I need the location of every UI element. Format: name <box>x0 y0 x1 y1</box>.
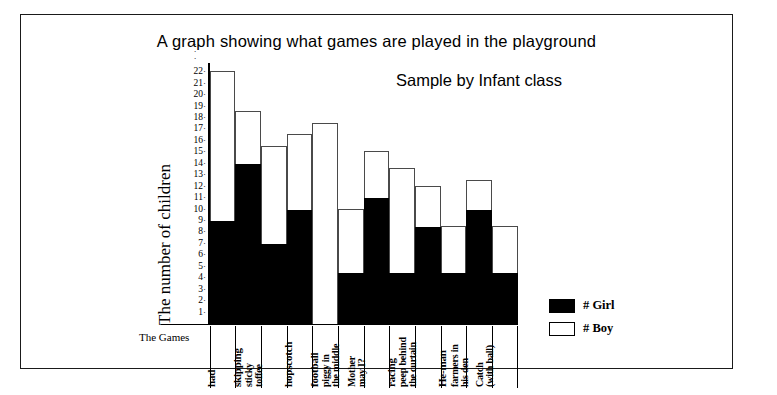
bar <box>338 210 364 324</box>
axis-top-dots: ... <box>194 39 196 60</box>
bar-segment-girl <box>389 273 415 325</box>
x-category-label-line: hopscotch <box>283 342 294 387</box>
legend-label: # Boy <box>583 321 613 336</box>
y-tick-label: 17· <box>194 125 207 135</box>
bar-segment-girl <box>415 227 441 324</box>
y-axis-ticks: 1·2·3·4·5·6·7·8·9·10·11·12·13·14·15·16·1… <box>186 63 206 325</box>
bar-segment-girl <box>466 210 492 324</box>
y-tick-label: 5· <box>198 262 206 272</box>
y-tick-label: 12· <box>194 182 207 192</box>
legend: # Girl# Boy <box>549 296 615 342</box>
bar-segment-boy <box>261 146 287 244</box>
bar-segment-girl <box>441 273 467 325</box>
bar <box>312 124 338 324</box>
bar-segment-boy <box>415 186 441 227</box>
y-axis-title-text: The number of children <box>155 164 175 325</box>
bar <box>287 135 313 324</box>
x-category-label: hopscotch <box>283 342 294 387</box>
x-category-label: racing <box>386 358 397 387</box>
x-category-label-line: toffee <box>254 363 264 387</box>
plot-area: ... 1·2·3·4·5·6·7·8·9·10·11·12·13·14·15·… <box>208 63 518 325</box>
bar <box>210 72 236 324</box>
bar-segment-girl <box>364 198 390 324</box>
x-axis-title: The Games <box>139 331 189 343</box>
bar-segment-boy <box>338 209 364 273</box>
legend-item: # Boy <box>549 319 615 338</box>
bar <box>261 147 287 324</box>
bar-segment-girl <box>210 221 236 324</box>
chart-frame: A graph showing what games are played in… <box>20 14 733 369</box>
bar-segment-boy <box>441 226 467 273</box>
x-category-label: had <box>206 370 217 387</box>
legend-swatch-girl <box>549 299 575 313</box>
x-category-label: farmers inhis den <box>450 344 470 387</box>
bar-segment-girl <box>338 273 364 325</box>
bars-group <box>210 63 518 324</box>
y-tick-label: 18· <box>194 113 207 123</box>
y-tick-label: 19· <box>194 102 207 112</box>
bar-segment-boy <box>492 226 518 273</box>
legend-item: # Girl <box>549 296 615 315</box>
x-category-label: He-man <box>437 350 448 387</box>
y-tick-label: 22· <box>194 67 207 77</box>
legend-label: # Girl <box>583 298 615 313</box>
bar <box>415 187 441 324</box>
x-category-label-line: racing <box>386 358 397 387</box>
bar-segment-girl <box>492 273 518 325</box>
bar-segment-boy <box>235 111 261 164</box>
x-category-label: football <box>309 353 320 387</box>
bar <box>235 112 261 324</box>
x-category-label-line: (with ball) <box>485 345 495 387</box>
y-tick-label: 14· <box>194 159 207 169</box>
bar-segment-boy <box>389 168 415 272</box>
y-tick-label: 6· <box>198 251 206 261</box>
bar-segment-girl <box>261 244 287 324</box>
y-tick-label: 8· <box>198 228 206 238</box>
y-tick-label: 9· <box>198 216 206 226</box>
y-tick-label: 3· <box>198 285 206 295</box>
bar-segment-boy <box>466 180 492 210</box>
bar-segment-boy <box>287 134 313 209</box>
x-category-label-line: skipping <box>232 348 243 387</box>
x-category-cell: Catch(with ball) <box>492 326 518 388</box>
x-category-label: peep behindthe curtain <box>398 337 418 387</box>
x-category-label: stickytoffee <box>244 363 264 387</box>
x-category-label: skipping <box>232 348 243 387</box>
y-tick-label: 4· <box>198 273 206 283</box>
legend-swatch-boy <box>549 322 575 336</box>
chart-title: A graph showing what games are played in… <box>21 32 732 51</box>
x-category-label-line: the curtain <box>408 337 418 387</box>
x-category-label: piggy inthe middle <box>321 344 341 387</box>
y-tick-label: 7· <box>198 239 206 249</box>
bar-segment-boy <box>364 151 390 198</box>
bar <box>364 152 390 324</box>
x-category-label-line: football <box>309 353 320 387</box>
x-category-label-line: his den <box>460 344 470 387</box>
x-axis-category-labels: hadskippingstickytoffeehopscotchfootball… <box>210 326 520 388</box>
y-tick-label: 2· <box>198 296 206 306</box>
y-tick-label: 20· <box>194 90 207 100</box>
bar <box>441 227 467 324</box>
y-tick-label: 10· <box>194 205 207 215</box>
y-tick-label: 1· <box>198 308 206 318</box>
bar <box>389 169 415 324</box>
y-tick-label: 21· <box>194 79 207 89</box>
y-tick-label: 15· <box>194 148 207 158</box>
y-tick-label: 13· <box>194 170 207 180</box>
x-category-label-line: the middle <box>331 344 341 387</box>
x-category-label-line: had <box>206 370 217 387</box>
x-category-label-line: He-man <box>437 350 448 387</box>
bar-segment-girl <box>287 210 313 324</box>
x-category-label: Mothermay I? <box>347 356 367 387</box>
y-tick-label: 16· <box>194 136 207 146</box>
y-tick-label: 11· <box>194 193 206 203</box>
bar-segment-boy <box>312 123 338 324</box>
x-category-label-line: may I? <box>357 356 367 387</box>
bar-segment-boy <box>210 71 236 221</box>
bar <box>466 181 492 324</box>
x-category-label: Catch(with ball) <box>475 345 495 387</box>
bar <box>492 227 518 324</box>
bar-segment-girl <box>235 164 261 324</box>
